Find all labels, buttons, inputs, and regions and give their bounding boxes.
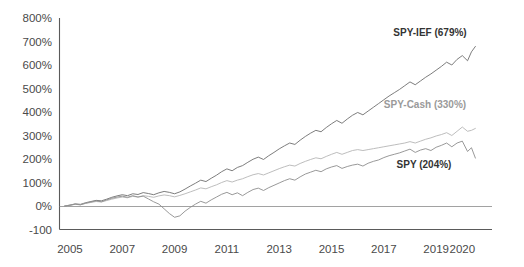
x-axis-tick-label: 2007 <box>109 243 135 255</box>
x-axis-tick-label: 2005 <box>57 243 83 255</box>
chart-container: -1000%100%200%300%400%500%600%700%800% 2… <box>0 0 524 267</box>
series-line-spy <box>65 141 476 217</box>
x-axis-tick-labels: 200520072009201120132015201720192020 <box>57 243 475 255</box>
series-paths <box>65 46 476 217</box>
line-chart: -1000%100%200%300%400%500%600%700%800% 2… <box>0 0 524 267</box>
x-axis-tick-label: 2009 <box>162 243 188 255</box>
x-axis-tick-label: 2019 <box>423 243 449 255</box>
series-label-spy-ief: SPY-IEF (679%) <box>393 27 466 38</box>
x-axis-tick-label: 2011 <box>215 243 240 255</box>
y-axis-tick-labels: -1000%100%200%300%400%500%600%700%800% <box>23 12 52 236</box>
x-axis-tick-label: 2013 <box>266 243 292 255</box>
series-label-spy-cash: SPY-Cash (330%) <box>384 99 466 110</box>
y-axis-tick-label: 100% <box>23 177 52 189</box>
y-axis-tick-label: 0% <box>35 200 52 212</box>
y-axis-tick-label: 300% <box>23 130 52 142</box>
y-axis-tick-label: 600% <box>23 59 52 71</box>
x-axis-tick-label: 2015 <box>319 243 345 255</box>
y-axis-tick-label: 800% <box>23 12 52 24</box>
y-axis-tick-label: 200% <box>23 153 52 165</box>
y-axis-tick-label: 400% <box>23 106 52 118</box>
y-axis-tick-label: -100 <box>29 224 52 236</box>
series-label-spy: SPY (204%) <box>397 159 452 170</box>
y-axis-tick-label: 700% <box>23 36 52 48</box>
x-axis-tick-label: 2017 <box>371 243 397 255</box>
series-line-spy-ief <box>65 46 476 206</box>
x-axis-tick-label: 2020 <box>450 243 476 255</box>
y-axis-tick-label: 500% <box>23 83 52 95</box>
